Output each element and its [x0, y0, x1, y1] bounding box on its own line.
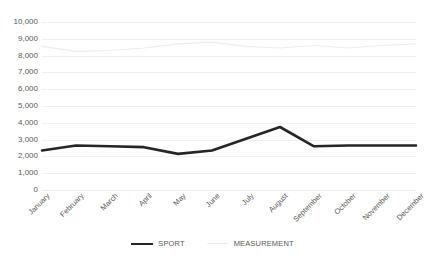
x-axis-tick-label: November: [362, 192, 392, 222]
x-axis-tick-label: August: [267, 192, 289, 214]
y-axis-tick-label: 2,000: [0, 152, 38, 160]
series-lines: [42, 22, 416, 190]
y-axis-tick-label: 6,000: [0, 85, 38, 93]
legend-swatch-icon: [131, 243, 153, 245]
plot-area: [42, 22, 416, 190]
x-axis-tick-label: April: [137, 192, 153, 208]
y-axis-tick-label: 10,000: [0, 18, 38, 26]
y-axis-tick-label: 8,000: [0, 52, 38, 60]
x-axis-tick-label: December: [396, 192, 425, 222]
legend-label: SPORT: [158, 239, 184, 248]
x-axis-tick-label: February: [59, 192, 86, 219]
line-chart: 10,0009,0008,0007,0006,0005,0004,0003,00…: [0, 0, 425, 266]
y-axis-tick-label: 4,000: [0, 119, 38, 127]
y-axis: 10,0009,0008,0007,0006,0005,0004,0003,00…: [0, 22, 38, 190]
x-axis-tick-label: March: [99, 192, 119, 212]
x-axis: JanuaryFebruaryMarchAprilMayJuneJulyAugu…: [42, 192, 416, 234]
series-line-measurement: [42, 42, 416, 51]
y-axis-tick-label: 7,000: [0, 68, 38, 76]
series-line-sport: [42, 127, 416, 154]
x-axis-tick-label: June: [204, 192, 221, 209]
x-axis-tick-label: September: [292, 192, 324, 224]
chart-legend: SPORTMEASUREMENT: [0, 239, 425, 248]
legend-swatch-icon: [207, 243, 229, 244]
x-axis-tick-label: January: [27, 192, 52, 217]
legend-item-measurement[interactable]: MEASUREMENT: [207, 239, 294, 248]
x-axis-tick-label: May: [172, 192, 188, 208]
y-axis-tick-label: 0: [0, 186, 38, 194]
chart-title: [0, 0, 425, 2]
gridline: [42, 190, 416, 191]
y-axis-tick-label: 9,000: [0, 35, 38, 43]
y-axis-tick-label: 5,000: [0, 102, 38, 110]
y-axis-tick-label: 1,000: [0, 169, 38, 177]
y-axis-tick-label: 3,000: [0, 136, 38, 144]
x-axis-tick-label: October: [333, 192, 358, 217]
legend-item-sport[interactable]: SPORT: [131, 239, 184, 248]
legend-label: MEASUREMENT: [234, 239, 294, 248]
x-axis-tick-label: July: [241, 192, 256, 207]
